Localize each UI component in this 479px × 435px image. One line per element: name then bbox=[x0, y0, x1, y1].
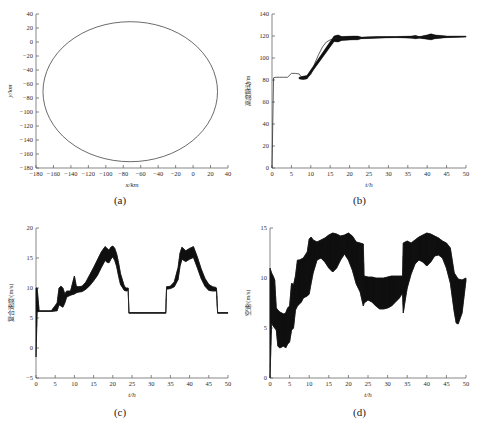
x-tick-label: 30 bbox=[385, 170, 391, 177]
x-tick-label: 0 bbox=[34, 380, 37, 387]
y-axis-label: 高度脉动/m bbox=[244, 76, 252, 107]
y-axis-label: 复合速度/(m/s) bbox=[7, 284, 15, 323]
x-tick-label: −80 bbox=[118, 170, 128, 177]
y-tick-label: 60 bbox=[263, 98, 269, 105]
x-tick-label: 35 bbox=[404, 380, 410, 387]
panel-d: 05101520253035404550051015t/h空速/(m/s) bbox=[240, 214, 479, 404]
y-tick-label: 20 bbox=[27, 224, 33, 231]
y-tick-label: 0 bbox=[30, 38, 33, 45]
x-tick-label: 20 bbox=[207, 170, 213, 177]
x-tick-label: 15 bbox=[327, 170, 333, 177]
altitude-curve bbox=[272, 37, 466, 168]
panel-c-caption: (c) bbox=[0, 406, 240, 418]
y-tick-label: −120 bbox=[20, 122, 33, 129]
x-tick-label: 0 bbox=[270, 170, 273, 177]
y-axis-label: 空速/(m/s) bbox=[244, 290, 252, 317]
y-tick-label: 140 bbox=[259, 10, 269, 17]
figure-container: −180−160−140−120−100−80−60−40−2002040402… bbox=[0, 0, 479, 435]
y-tick-label: 80 bbox=[263, 76, 269, 83]
y-tick-label: 0 bbox=[266, 164, 269, 171]
panel-d-plot: 05101520253035404550051015t/h空速/(m/s) bbox=[240, 214, 479, 404]
panel-a-caption: (a) bbox=[0, 194, 240, 206]
x-tick-label: 35 bbox=[167, 380, 173, 387]
x-tick-label: −20 bbox=[171, 170, 181, 177]
y-tick-label: 20 bbox=[27, 24, 33, 31]
y-axis-label: y/km bbox=[6, 84, 14, 98]
panel-b-caption: (b) bbox=[240, 194, 479, 206]
y-tick-label: 15 bbox=[27, 254, 33, 261]
x-tick-label: 5 bbox=[54, 380, 57, 387]
y-tick-label: −100 bbox=[20, 108, 33, 115]
y-tick-label: −140 bbox=[20, 136, 33, 143]
x-tick-label: 0 bbox=[268, 380, 271, 387]
x-tick-label: 30 bbox=[384, 380, 390, 387]
y-tick-label: 100 bbox=[259, 54, 269, 61]
x-tick-label: 10 bbox=[71, 380, 77, 387]
x-tick-label: 40 bbox=[424, 380, 430, 387]
y-tick-label: 120 bbox=[259, 32, 269, 39]
x-tick-label: −140 bbox=[64, 170, 77, 177]
panel-d-caption: (d) bbox=[240, 406, 479, 418]
y-tick-label: 5 bbox=[30, 314, 33, 321]
panel-c: 05101520253035404550−505101520t/h复合速度/(m… bbox=[0, 214, 240, 404]
panel-a-plot: −180−160−140−120−100−80−60−40−2002040402… bbox=[0, 2, 240, 192]
x-tick-label: 20 bbox=[346, 170, 352, 177]
y-tick-label: −180 bbox=[20, 164, 33, 171]
y-tick-label: 10 bbox=[261, 274, 267, 281]
x-tick-label: 50 bbox=[225, 380, 231, 387]
x-tick-label: 40 bbox=[186, 380, 192, 387]
panel-c-plot: 05101520253035404550−505101520t/h复合速度/(m… bbox=[0, 214, 240, 404]
y-tick-label: 0 bbox=[30, 344, 33, 351]
x-tick-label: 20 bbox=[345, 380, 351, 387]
panel-b-plot: 05101520253035404550020406080100120140t/… bbox=[240, 2, 479, 192]
panel-a: −180−160−140−120−100−80−60−40−2002040402… bbox=[0, 2, 240, 192]
x-tick-label: −60 bbox=[136, 170, 146, 177]
oscillation-hatch bbox=[270, 233, 466, 378]
y-tick-label: −160 bbox=[20, 150, 33, 157]
x-tick-label: 10 bbox=[308, 170, 314, 177]
y-tick-label: 20 bbox=[263, 142, 269, 149]
x-tick-label: 40 bbox=[225, 170, 231, 177]
x-tick-label: −120 bbox=[82, 170, 95, 177]
y-tick-label: 5 bbox=[264, 324, 267, 331]
x-tick-label: 45 bbox=[206, 380, 212, 387]
x-tick-label: −160 bbox=[47, 170, 60, 177]
x-tick-label: 10 bbox=[306, 380, 312, 387]
x-tick-label: 45 bbox=[443, 380, 449, 387]
trajectory-ellipse bbox=[43, 22, 218, 162]
x-tick-label: 25 bbox=[366, 170, 372, 177]
x-tick-label: 50 bbox=[463, 380, 469, 387]
y-tick-label: 0 bbox=[264, 374, 267, 381]
x-tick-label: 40 bbox=[424, 170, 430, 177]
x-tick-label: 5 bbox=[288, 380, 291, 387]
x-tick-label: 30 bbox=[148, 380, 154, 387]
y-tick-label: 15 bbox=[261, 224, 267, 231]
x-tick-label: 25 bbox=[365, 380, 371, 387]
y-tick-label: −20 bbox=[23, 52, 33, 59]
x-tick-label: 45 bbox=[443, 170, 449, 177]
x-axis-label: t/h bbox=[365, 181, 373, 189]
y-tick-label: 10 bbox=[27, 284, 33, 291]
y-tick-label: −40 bbox=[23, 66, 33, 73]
x-tick-label: 50 bbox=[463, 170, 469, 177]
oscillation-hatch bbox=[299, 34, 466, 80]
x-axis-label: t/h bbox=[364, 391, 372, 399]
x-tick-label: −40 bbox=[153, 170, 163, 177]
x-tick-label: 5 bbox=[290, 170, 293, 177]
x-axis-label: t/h bbox=[128, 391, 136, 399]
x-tick-label: 0 bbox=[191, 170, 194, 177]
y-tick-label: 40 bbox=[263, 120, 269, 127]
y-tick-label: −60 bbox=[23, 80, 33, 87]
x-tick-label: 20 bbox=[110, 380, 116, 387]
x-tick-label: 15 bbox=[326, 380, 332, 387]
panel-b: 05101520253035404550020406080100120140t/… bbox=[240, 2, 479, 192]
x-tick-label: −100 bbox=[99, 170, 112, 177]
x-tick-label: 35 bbox=[405, 170, 411, 177]
y-tick-label: 40 bbox=[27, 10, 33, 17]
altitude-oscillation-band bbox=[299, 34, 466, 80]
y-tick-label: −80 bbox=[23, 94, 33, 101]
x-tick-label: 15 bbox=[90, 380, 96, 387]
x-axis-label: x/km bbox=[124, 181, 138, 189]
y-tick-label: −5 bbox=[26, 374, 33, 381]
x-tick-label: 25 bbox=[129, 380, 135, 387]
